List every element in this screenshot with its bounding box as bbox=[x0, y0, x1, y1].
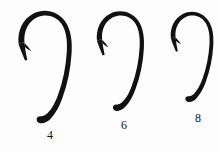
hook-figure: 4 6 8 bbox=[0, 0, 220, 151]
hook-barb-path-8 bbox=[176, 38, 181, 44]
hook-size-label-8: 8 bbox=[186, 112, 210, 124]
hook-size-label-6: 6 bbox=[112, 119, 136, 131]
hook-body-path-8 bbox=[171, 12, 214, 102]
hook-size-label-4: 4 bbox=[38, 129, 62, 141]
hook-shape-8 bbox=[0, 0, 220, 151]
hook-illustration-8 bbox=[0, 0, 220, 151]
